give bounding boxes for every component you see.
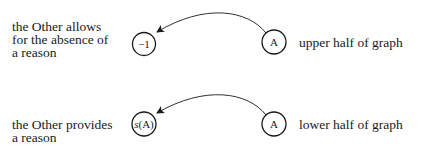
node-s-of-a-label: s(A): [134, 118, 154, 131]
lower-right-label: lower half of graph: [299, 118, 403, 131]
node-a-upper-label: A: [270, 36, 278, 48]
node-minus-one-label: −1: [138, 38, 150, 50]
upper-left-label: the Other allows for the absence of a re…: [12, 20, 108, 59]
upper-graph: −1 A: [133, 13, 287, 56]
lower-left-label: the Other provides a reason: [12, 118, 112, 144]
arrow-upper: [157, 13, 266, 33]
arrow-lower: [157, 95, 266, 115]
node-a-lower-label: A: [270, 118, 278, 130]
lower-graph: s(A) A: [132, 95, 286, 136]
upper-right-label: upper half of graph: [299, 36, 403, 49]
